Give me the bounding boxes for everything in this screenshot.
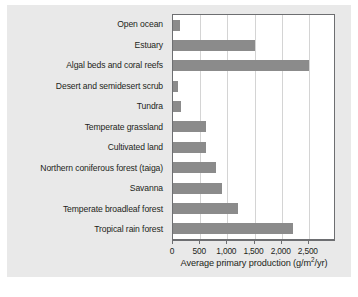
bar — [173, 162, 216, 173]
bar-row — [173, 96, 334, 116]
x-axis-line — [172, 240, 335, 241]
bar-row — [173, 56, 334, 76]
bar-row — [173, 76, 334, 96]
bar — [173, 40, 255, 51]
category-label: Northern coniferous forest (taiga) — [8, 158, 168, 179]
bar-row — [173, 219, 334, 239]
tick-mark — [226, 240, 227, 244]
category-axis-labels: Open oceanEstuaryAlgal beds and coral re… — [8, 14, 168, 240]
tick-label: 500 — [192, 246, 205, 256]
category-label: Algal beds and coral reefs — [8, 55, 168, 76]
tick-mark — [281, 240, 282, 244]
tick-label: 1,500 — [244, 246, 264, 256]
tick-mark — [172, 240, 173, 244]
plot-area — [172, 14, 335, 240]
category-label: Tropical rain forest — [8, 219, 168, 240]
category-label: Temperate broadleaf forest — [8, 199, 168, 220]
bar — [173, 101, 181, 112]
axis-title-superscript: 2 — [311, 256, 314, 263]
bar — [173, 142, 206, 153]
category-label: Tundra — [8, 96, 168, 117]
tick-label: 0 — [170, 246, 174, 256]
category-label: Open ocean — [8, 14, 168, 35]
bar — [173, 121, 206, 132]
bar — [173, 20, 180, 31]
tick-mark — [199, 240, 200, 244]
bar — [173, 81, 178, 92]
bar — [173, 223, 293, 234]
category-label: Estuary — [8, 35, 168, 56]
tick-label: 2,000 — [271, 246, 291, 256]
category-label: Savanna — [8, 178, 168, 199]
bar-row — [173, 178, 334, 198]
tick-mark — [308, 240, 309, 244]
x-axis-tick-labels: 05001,0001,5002,0002,500 — [150, 246, 358, 258]
bar — [173, 60, 309, 71]
bar — [173, 183, 222, 194]
bar-row — [173, 117, 334, 137]
category-label: Temperate grassland — [8, 117, 168, 138]
bar-series — [173, 15, 334, 239]
category-label: Cultivated land — [8, 137, 168, 158]
bar-row — [173, 35, 334, 55]
figure: Open oceanEstuaryAlgal beds and coral re… — [0, 0, 358, 297]
x-axis-title: Average primary production (g/m2/yr) — [150, 258, 358, 268]
tick-label: 2,500 — [298, 246, 318, 256]
bar-row — [173, 198, 334, 218]
bar-row — [173, 137, 334, 157]
tick-mark — [254, 240, 255, 244]
bar-row — [173, 158, 334, 178]
bar — [173, 203, 238, 214]
category-label: Desert and semidesert scrub — [8, 76, 168, 97]
bar-row — [173, 15, 334, 35]
tick-label: 1,000 — [216, 246, 236, 256]
